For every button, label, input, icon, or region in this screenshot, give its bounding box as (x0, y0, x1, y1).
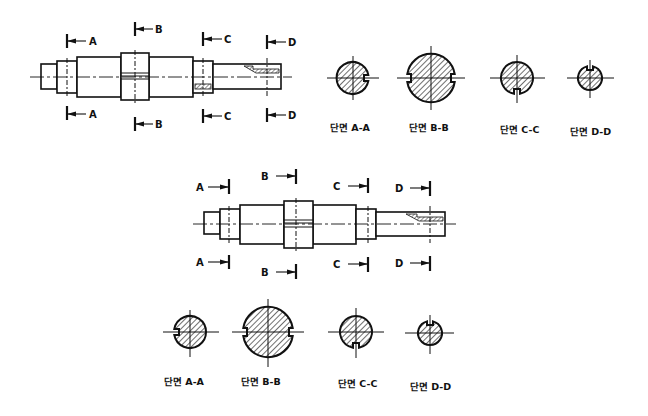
svg-text:A: A (196, 182, 204, 193)
svg-text:D: D (395, 258, 403, 269)
svg-text:A: A (89, 36, 97, 47)
svg-text:B: B (155, 24, 163, 35)
section-view-bottom-b: 단면 B-B (232, 299, 304, 387)
section-view-top-c: 단면 C-C (490, 55, 545, 135)
svg-text:B: B (155, 119, 163, 130)
section-view-bottom-a: 단면 A-A (163, 310, 219, 387)
svg-text:D: D (288, 110, 296, 121)
svg-text:C: C (333, 181, 340, 192)
svg-text:B: B (261, 267, 269, 278)
svg-text:C: C (224, 111, 231, 122)
svg-text:단면 B-B: 단면 B-B (241, 376, 281, 387)
section-view-top-a: 단면 A-A (327, 56, 379, 133)
svg-text:단면 C-C: 단면 C-C (338, 378, 377, 389)
technical-drawing: A A B B C C D D 단면 A (0, 0, 648, 416)
svg-text:단면 A-A: 단면 A-A (164, 376, 205, 387)
svg-text:A: A (196, 257, 204, 268)
section-view-top-d: 단면 D-D (567, 60, 614, 137)
svg-text:단면 D-D: 단면 D-D (570, 126, 611, 137)
svg-text:단면 A-A: 단면 A-A (330, 122, 371, 133)
svg-text:D: D (288, 37, 296, 48)
svg-text:D: D (395, 183, 403, 194)
shaft-drawing-top (30, 50, 292, 104)
svg-text:단면 C-C: 단면 C-C (500, 124, 539, 135)
svg-text:B: B (261, 171, 269, 182)
shaft-drawing-bottom (193, 198, 456, 252)
svg-text:A: A (89, 109, 97, 120)
svg-text:C: C (333, 259, 340, 270)
svg-text:단면 D-D: 단면 D-D (410, 381, 451, 392)
section-view-top-b: 단면 B-B (397, 46, 465, 133)
section-view-bottom-c: 단면 C-C (328, 308, 384, 389)
section-view-bottom-d: 단면 D-D (405, 315, 454, 392)
svg-text:단면 B-B: 단면 B-B (409, 122, 449, 133)
svg-text:C: C (224, 34, 231, 45)
